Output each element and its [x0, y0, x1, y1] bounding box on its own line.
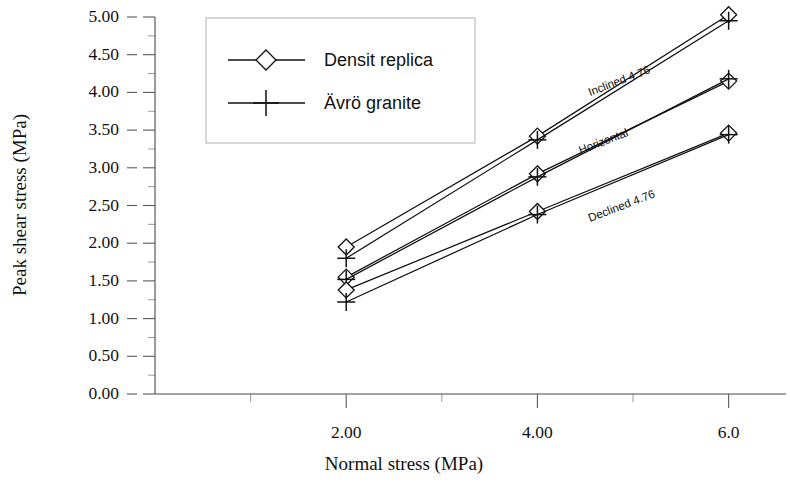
x-axis-title: Normal stress (MPa) [325, 453, 483, 475]
y-tick-label: 1.00 [88, 308, 119, 328]
legend: Densit replica Ävrö granite [206, 18, 475, 143]
y-tick-label: 1.50 [88, 270, 119, 290]
x-tick-label: 4.00 [522, 422, 553, 442]
legend-border [206, 18, 475, 143]
y-tick-label: 4.00 [88, 81, 119, 101]
peak-shear-stress-chart: 0.000.501.001.502.002.503.003.504.004.50… [0, 0, 790, 486]
y-tick-label: 3.00 [88, 157, 119, 177]
y-tick-label: 2.00 [88, 232, 119, 252]
y-tick-label: 0.50 [88, 345, 119, 365]
y-tick-label: 4.50 [88, 44, 119, 64]
legend-label-avro-granite: Ävrö granite [324, 93, 421, 113]
chart-container: 0.000.501.001.502.002.503.003.504.004.50… [0, 0, 790, 486]
y-axis-title: Peak shear stress (MPa) [9, 114, 31, 296]
y-tick-label: 3.50 [88, 119, 119, 139]
x-tick-label: 2.00 [331, 422, 362, 442]
x-tick-label: 6.0 [718, 422, 740, 442]
legend-label-densit-replica: Densit replica [324, 50, 434, 70]
y-tick-label: 0.00 [88, 383, 119, 403]
y-tick-label: 5.00 [88, 6, 119, 26]
y-tick-label: 2.50 [88, 195, 119, 215]
